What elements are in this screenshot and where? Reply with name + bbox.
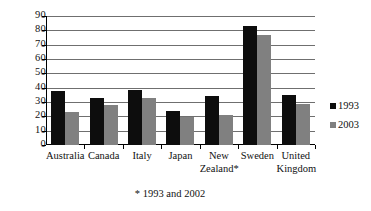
y-axis-tick-label: 70 — [6, 39, 46, 49]
bar-2003-italy — [142, 98, 156, 145]
y-axis-tick-label: 80 — [6, 24, 46, 34]
bar-chart: 0102030405060708090 AustraliaCanadaItaly… — [0, 0, 371, 211]
bar-group — [200, 16, 238, 145]
x-axis-tick-mark — [123, 145, 124, 149]
y-axis-tick-label: 30 — [6, 96, 46, 106]
bar-2003-japan — [180, 117, 194, 145]
bar-2003-australia — [65, 112, 79, 145]
y-axis-tick-label: 20 — [6, 110, 46, 120]
bar-group — [238, 16, 276, 145]
bar-1993-canada — [90, 98, 104, 145]
x-axis-label-line: Kingdom — [277, 163, 315, 176]
x-axis-label-line: Canada — [84, 150, 122, 163]
x-axis-label-newzealand: NewZealand* — [200, 150, 238, 175]
y-axis-tick-label: 10 — [6, 125, 46, 135]
y-axis-tick-label: 40 — [6, 82, 46, 92]
y-axis-tick-label: 90 — [6, 10, 46, 20]
x-axis-tick-mark — [238, 145, 239, 149]
x-axis-label-unitedkingdom: UnitedKingdom — [277, 150, 315, 175]
x-axis-tick-mark — [277, 145, 278, 149]
legend-label: 1993 — [338, 96, 359, 115]
x-axis-label-sweden: Sweden — [238, 150, 276, 163]
legend-item-2003: 2003 — [330, 115, 359, 134]
bar-group — [123, 16, 161, 145]
bar-group — [277, 16, 315, 145]
bar-1993-italy — [128, 90, 142, 145]
x-axis-label-italy: Italy — [123, 150, 161, 163]
bar-1993-newzealand — [205, 96, 219, 145]
legend-label: 2003 — [338, 115, 359, 134]
y-axis-tick-label: 60 — [6, 53, 46, 63]
x-axis-label-line: Zealand* — [200, 163, 238, 176]
y-axis-tick-label: 50 — [6, 67, 46, 77]
y-axis-tick-label: 0 — [6, 139, 46, 149]
bar-2003-sweden — [257, 35, 271, 145]
bar-2003-unitedkingdom — [296, 104, 310, 145]
bar-1993-australia — [51, 91, 65, 145]
chart-legend: 19932003 — [330, 96, 359, 134]
x-axis-label-line: Japan — [161, 150, 199, 163]
x-axis-label-line: Italy — [123, 150, 161, 163]
x-axis-tick-mark — [84, 145, 85, 149]
bar-1993-sweden — [243, 26, 257, 145]
chart-footnote: * 1993 and 2002 — [0, 188, 340, 199]
bar-group — [84, 16, 122, 145]
x-axis-label-canada: Canada — [84, 150, 122, 163]
legend-swatch-icon — [330, 122, 336, 128]
x-axis-label-japan: Japan — [161, 150, 199, 163]
x-axis-label-line: Australia — [46, 150, 84, 163]
bar-1993-japan — [166, 111, 180, 145]
x-axis-label-line: Sweden — [238, 150, 276, 163]
bar-1993-unitedkingdom — [282, 95, 296, 145]
bar-group — [46, 16, 84, 145]
x-axis-tick-mark — [200, 145, 201, 149]
x-axis-label-australia: Australia — [46, 150, 84, 163]
x-axis-tick-mark — [315, 145, 316, 149]
y-axis-tick-mark — [42, 145, 46, 146]
x-axis-label-line: New — [200, 150, 238, 163]
x-axis-label-line: United — [277, 150, 315, 163]
bar-group — [161, 16, 199, 145]
legend-item-1993: 1993 — [330, 96, 359, 115]
legend-swatch-icon — [330, 103, 336, 109]
bar-2003-canada — [104, 105, 118, 145]
x-axis-tick-mark — [161, 145, 162, 149]
bar-2003-newzealand — [219, 115, 233, 145]
